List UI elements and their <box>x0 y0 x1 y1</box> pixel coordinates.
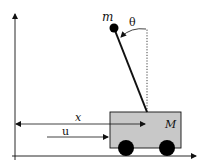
pendulum-bob <box>110 24 119 33</box>
cart-pendulum-diagram: m θ x u M <box>0 0 205 167</box>
right-wheel <box>159 140 175 156</box>
left-wheel <box>118 140 134 156</box>
pendulum-rod <box>114 28 147 112</box>
pendulum-mass-label: m <box>102 10 113 24</box>
angle-arc <box>121 29 146 37</box>
cart-position-label: x <box>75 111 82 124</box>
control-force-label: u <box>62 125 69 138</box>
cart-mass-label: M <box>164 118 177 131</box>
angle-label: θ <box>129 16 136 29</box>
